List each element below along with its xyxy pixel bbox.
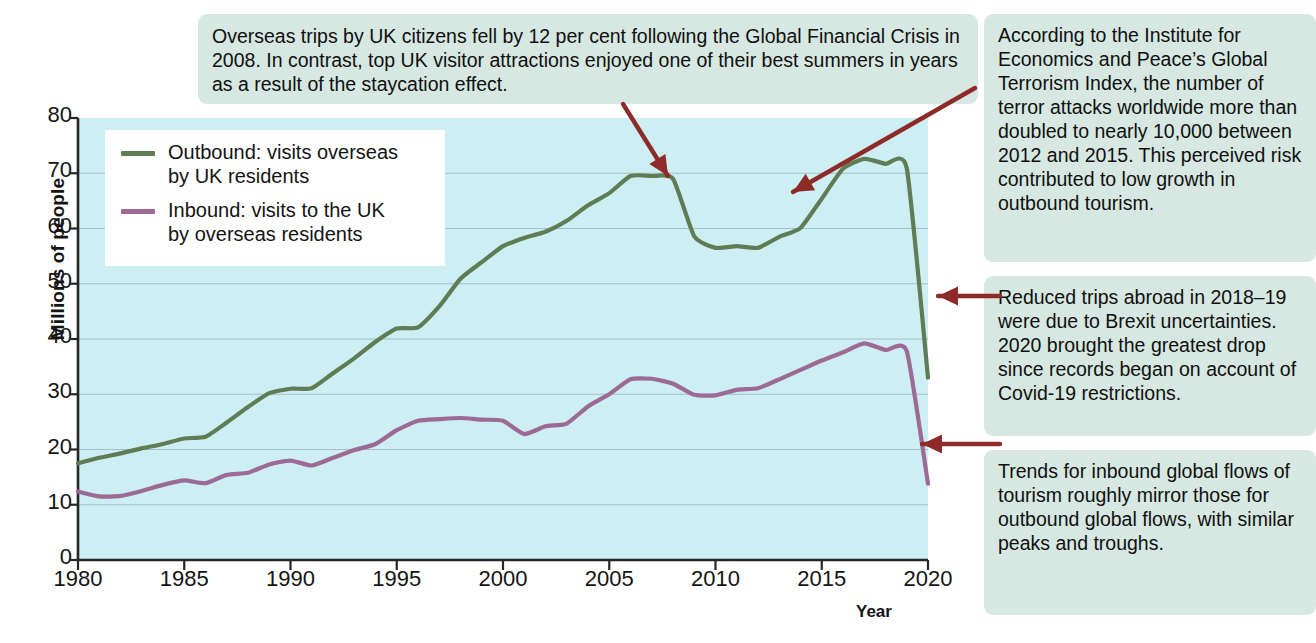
x-tick-label: 1995 xyxy=(355,566,439,592)
x-tick-label: 2010 xyxy=(674,566,758,592)
legend-swatch-outbound xyxy=(121,151,155,156)
x-tick-label: 2000 xyxy=(461,566,545,592)
chart-page: Millions of people 01020304050607080 198… xyxy=(0,0,1316,643)
legend-label-outbound-line1: Outbound: visits overseas xyxy=(168,141,398,163)
x-axis-title: Year xyxy=(856,602,892,622)
chart-legend: Outbound: visits overseas by UK resident… xyxy=(105,130,445,266)
legend-label-outbound-line2: by UK residents xyxy=(168,165,309,187)
callout-terrorism: According to the Institute for Economics… xyxy=(984,14,1316,262)
callout-inbound-trends: Trends for inbound global flows of touri… xyxy=(984,450,1316,615)
legend-label-inbound: Inbound: visits to the UK by overseas re… xyxy=(168,198,385,247)
x-tick-label: 1990 xyxy=(249,566,333,592)
legend-item-outbound: Outbound: visits overseas by UK resident… xyxy=(119,140,433,189)
x-tick-label: 2020 xyxy=(886,566,970,592)
callout-gfc: Overseas trips by UK citizens fell by 12… xyxy=(198,14,978,104)
legend-label-inbound-line1: Inbound: visits to the UK xyxy=(168,199,385,221)
callout-brexit: Reduced trips abroad in 2018–19 were due… xyxy=(984,276,1316,436)
legend-swatch-inbound xyxy=(121,209,155,214)
x-tick-label: 1980 xyxy=(36,566,120,592)
x-tick-label: 2005 xyxy=(567,566,651,592)
legend-label-outbound: Outbound: visits overseas by UK resident… xyxy=(168,140,398,189)
x-tick-label: 1985 xyxy=(142,566,226,592)
x-tick-label: 2015 xyxy=(780,566,864,592)
legend-label-inbound-line2: by overseas residents xyxy=(168,223,363,245)
legend-item-inbound: Inbound: visits to the UK by overseas re… xyxy=(119,198,433,247)
